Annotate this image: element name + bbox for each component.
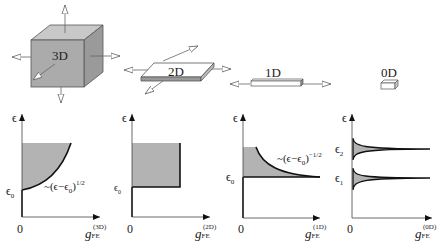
svg-text:ϵ: ϵ (122, 111, 127, 125)
slab-2d: 2D (124, 46, 231, 94)
cube-3d: 3D (12, 5, 120, 103)
label-2d: 2D (168, 64, 184, 79)
svg-text:ϵ: ϵ (342, 111, 347, 125)
dos-plot-1d: ϵ ϵ0 ~(ϵ−ϵ0)−1/2 0 gFE (1D) (226, 111, 327, 241)
dot-0d: 0D (381, 65, 398, 89)
label-0d: 0D (381, 65, 397, 80)
dos-plot-3d: ϵ ϵ0 ~(ϵ−ϵ0)1/2 0 gFE (3D) (6, 111, 107, 241)
wire-1d: 1D (230, 65, 331, 86)
svg-text:ϵ0: ϵ0 (6, 184, 15, 200)
formula-3d: ~(ϵ−ϵ0)1/2 (44, 179, 85, 195)
label-1d: 1D (265, 65, 281, 80)
formula-1d: ~(ϵ−ϵ0)−1/2 (277, 151, 322, 167)
dos-plot-0d: ϵ ϵ2 ϵ1 0 gFE (0D) (335, 111, 437, 241)
svg-text:(3D): (3D) (93, 223, 107, 231)
svg-text:(1D): (1D) (313, 223, 327, 231)
svg-text:ϵ0: ϵ0 (114, 182, 121, 195)
svg-text:ϵ: ϵ (12, 111, 17, 125)
svg-text:ϵ2: ϵ2 (335, 142, 344, 158)
svg-text:0: 0 (347, 222, 353, 236)
svg-text:0: 0 (127, 222, 133, 236)
density-of-states-diagram: 3D 2D 1D 0D ϵ ϵ0 ~(ϵ−ϵ0)1/2 0 (0, 0, 445, 247)
svg-text:(0D): (0D) (423, 223, 437, 231)
svg-text:(2D): (2D) (203, 223, 217, 231)
label-3d: 3D (52, 48, 68, 63)
dos-plot-2d: ϵ ϵ0 0 gFE (2D) (114, 111, 217, 241)
svg-text:0: 0 (17, 222, 23, 236)
svg-text:ϵ1: ϵ1 (335, 171, 344, 187)
svg-text:0: 0 (238, 222, 244, 236)
svg-text:ϵ0: ϵ0 (226, 170, 235, 186)
svg-text:ϵ: ϵ (233, 111, 238, 125)
